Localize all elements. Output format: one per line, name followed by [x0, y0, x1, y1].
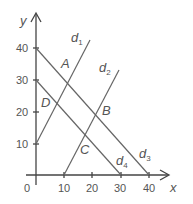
x-tick-40: 40: [143, 182, 155, 194]
coordinate-diagram: 0 10 20 30 40 x 40 30 20 10 y d1 d2 d3 d…: [0, 0, 193, 204]
label-d3: d3: [139, 146, 151, 163]
line-d2: [64, 70, 119, 175]
x-axis-label: x: [169, 180, 177, 195]
label-d4: d4: [116, 153, 128, 170]
origin-label: 0: [24, 182, 30, 194]
y-tick-20: 20: [16, 106, 28, 118]
point-A-label: A: [60, 56, 70, 71]
y-tick-40: 40: [16, 42, 28, 54]
x-tick-30: 30: [114, 182, 126, 194]
y-axis-label: y: [19, 13, 28, 28]
label-d2: d2: [99, 60, 111, 77]
point-D-label: D: [41, 95, 50, 110]
y-tick-30: 30: [16, 74, 28, 86]
point-C-label: C: [80, 142, 90, 157]
point-B-label: B: [102, 103, 111, 118]
x-tick-20: 20: [86, 182, 98, 194]
x-tick-10: 10: [58, 182, 70, 194]
label-d1: d1: [71, 30, 83, 47]
y-tick-10: 10: [16, 138, 28, 150]
